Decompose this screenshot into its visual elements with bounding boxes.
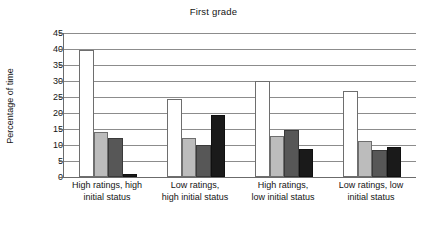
chart-title: First grade — [0, 6, 427, 17]
bar — [94, 132, 109, 177]
bar — [343, 91, 358, 177]
x-axis-label-line: initial status — [57, 192, 157, 204]
x-axis-labels: High ratings, highinitial statusLow rati… — [63, 180, 416, 222]
x-axis-label: Low ratings, lowinitial status — [321, 180, 421, 203]
bar — [255, 81, 270, 177]
y-axis-title: Percentage of time — [2, 36, 18, 176]
bar — [387, 147, 402, 177]
bar — [372, 150, 387, 177]
bar — [211, 115, 226, 177]
bar — [123, 174, 138, 177]
x-axis-label: High ratings, highinitial status — [57, 180, 157, 203]
x-axis-label-line: High ratings, high — [57, 180, 157, 192]
x-axis-label-line: low initial status — [233, 192, 333, 204]
chart-container: First grade Percentage of time 454035302… — [0, 0, 427, 226]
bar — [79, 50, 94, 177]
x-axis-label: Low ratings,high initial status — [145, 180, 245, 203]
bars-layer — [64, 33, 416, 177]
bar — [284, 130, 299, 177]
x-axis-label-line: Low ratings, low — [321, 180, 421, 192]
x-axis-label-line: High ratings, — [233, 180, 333, 192]
x-axis-line — [63, 177, 416, 178]
bar — [358, 141, 373, 177]
y-axis-title-text: Percentage of time — [5, 68, 15, 144]
x-axis-label-line: initial status — [321, 192, 421, 204]
x-axis-label-line: Low ratings, — [145, 180, 245, 192]
x-axis-label: High ratings,low initial status — [233, 180, 333, 203]
plot-area — [63, 33, 416, 177]
bar — [196, 145, 211, 177]
bar — [182, 138, 197, 177]
x-axis-label-line: high initial status — [145, 192, 245, 204]
bar — [108, 138, 123, 177]
bar — [299, 149, 314, 177]
bar — [270, 136, 285, 177]
y-axis-ticks: 454035302520151050 — [40, 33, 63, 178]
bar — [167, 99, 182, 177]
